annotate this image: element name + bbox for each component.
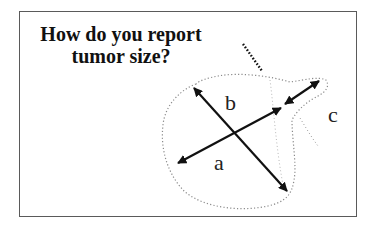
lobe-tail-line — [300, 118, 318, 146]
label-b: b — [225, 90, 236, 115]
tumor-diagram: b a c — [0, 0, 376, 228]
arrow-a — [178, 108, 281, 163]
label-a: a — [214, 150, 224, 175]
tumor-outline — [162, 74, 327, 208]
arrow-c — [285, 81, 319, 104]
label-c: c — [328, 102, 338, 127]
arrow-b — [194, 88, 287, 191]
leader-dotted-line — [243, 44, 262, 71]
